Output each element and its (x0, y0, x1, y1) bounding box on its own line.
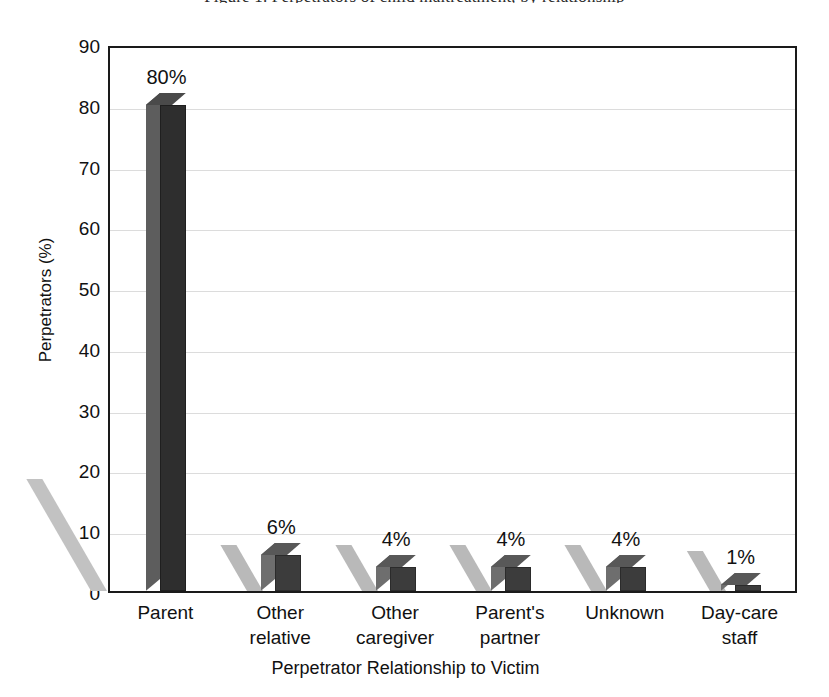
y-tick-label: 80 (38, 98, 100, 117)
y-tick-label: 50 (38, 280, 100, 299)
bar-value-labels: 80%6%4%4%4%1% (110, 48, 795, 591)
cropped-caption-fragment: Figure 1. Perpetrators of child maltreat… (0, 0, 829, 3)
x-axis-tick-labels: ParentOtherrelativeOthercaregiverParent'… (108, 600, 797, 658)
x-tick-label-line: Other (338, 600, 453, 625)
x-tick-label: Otherrelative (223, 600, 338, 650)
x-tick-label-line: Unknown (567, 600, 682, 625)
x-tick-label-line: Other (223, 600, 338, 625)
x-axis-title-text: Perpetrator Relationship to Victim (272, 658, 540, 679)
y-tick-label: 20 (38, 462, 100, 481)
x-tick-label-line: Parent's (453, 600, 568, 625)
x-tick-label: Othercaregiver (338, 600, 453, 650)
plot-area: 80%6%4%4%4%1% (108, 46, 797, 593)
x-tick-label-line: caregiver (338, 625, 453, 650)
x-tick-label-line: staff (682, 625, 797, 650)
x-tick-label-line: Parent (108, 600, 223, 625)
x-tick-label-line: Day-care (682, 600, 797, 625)
x-tick-label: Parent'spartner (453, 600, 568, 650)
figure-chart-perpetrators: Figure 1. Perpetrators of child maltreat… (0, 0, 829, 697)
bar-value-label: 6% (221, 517, 341, 537)
x-tick-label-line: relative (223, 625, 338, 650)
bar-value-label: 1% (681, 547, 801, 567)
x-tick-label: Day-carestaff (682, 600, 797, 650)
y-tick-label: 60 (38, 219, 100, 238)
bar-value-label: 4% (566, 529, 686, 549)
x-axis-title: Perpetrator Relationship to Victim (0, 658, 829, 679)
y-tick-label: 40 (38, 341, 100, 360)
bar-value-label: 80% (106, 67, 226, 87)
y-tick-label: 90 (38, 37, 100, 56)
bar-value-label: 4% (451, 529, 571, 549)
y-tick-label: 30 (38, 402, 100, 421)
bar-value-label: 4% (336, 529, 456, 549)
x-tick-label: Parent (108, 600, 223, 625)
y-tick-label: 70 (38, 159, 100, 178)
x-tick-label: Unknown (567, 600, 682, 625)
x-tick-label-line: partner (453, 625, 568, 650)
